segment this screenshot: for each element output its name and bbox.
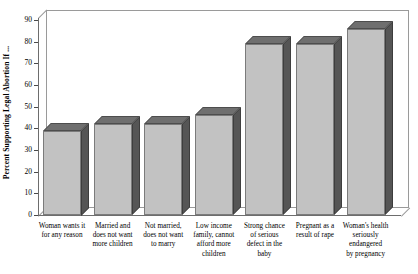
x-axis-category-line: Not married, [136, 222, 191, 231]
bar-top-face [347, 21, 393, 29]
x-axis-category-line: does not want [85, 231, 140, 240]
bar [43, 123, 81, 216]
x-axis-category-label: Pregnant as aresult of rape [288, 222, 343, 240]
x-axis-category-label: Not married,does not wantto marry [136, 222, 191, 250]
x-axis-category-line: Woman wants it [35, 222, 90, 231]
bar-front-face [43, 131, 81, 216]
bar-top-face [43, 123, 89, 131]
plot-area: 0102030405060708090 [38, 10, 409, 216]
y-tick-mark [34, 215, 38, 216]
x-axis-labels: Woman wants itfor any reasonMarried andd… [38, 222, 409, 274]
bar [144, 116, 182, 215]
bar-side-face [182, 116, 190, 215]
x-axis-category-line: family, cannot [187, 231, 242, 240]
x-axis-category-line: by pregnancy [338, 250, 393, 259]
y-tick-label: 90 [25, 16, 33, 24]
x-axis-category-line: result of rape [288, 231, 343, 240]
x-axis-category-line: seriously endangered [338, 231, 393, 249]
bar [195, 107, 233, 215]
bar-top-face [94, 116, 140, 124]
x-axis-category-line: of serious [237, 231, 292, 240]
y-tick-mark [34, 172, 38, 173]
bar-front-face [347, 29, 385, 215]
x-axis-category-line: more children [85, 240, 140, 249]
y-tick-label: 70 [25, 60, 33, 68]
x-axis-category-line: does not want [136, 231, 191, 240]
y-axis-title: Percent Supporting Legal Abortion If ... [0, 0, 14, 225]
y-tick-label: 30 [25, 146, 33, 154]
y-tick-label: 20 [25, 168, 33, 176]
y-tick-label: 10 [25, 190, 33, 198]
y-tick-mark [34, 128, 38, 129]
bar [347, 21, 385, 215]
bar-front-face [94, 124, 132, 215]
bar-chart: Percent Supporting Legal Abortion If ...… [0, 0, 418, 274]
y-tick-label: 0 [28, 211, 32, 219]
bar-side-face [81, 123, 89, 216]
x-axis-category-line: children [187, 250, 242, 259]
y-tick-mark [34, 42, 38, 43]
x-axis-category-line: Married and [85, 222, 140, 231]
bar-side-face [132, 116, 140, 215]
x-axis-category-line: afford more [187, 240, 242, 249]
bar [245, 36, 283, 215]
x-axis-category-label: Married anddoes not wantmore children [85, 222, 140, 250]
y-axis-title-text: Percent Supporting Legal Abortion If ... [3, 46, 12, 179]
x-axis-category-line: Woman's health [338, 222, 393, 231]
x-axis-line [38, 215, 401, 216]
y-tick-label: 40 [25, 125, 33, 133]
x-axis-category-line: Strong chance [237, 222, 292, 231]
x-axis-category-line: for any reason [35, 231, 90, 240]
x-axis-category-line: baby [237, 250, 292, 259]
y-tick-mark [34, 20, 38, 21]
bar-front-face [245, 44, 283, 215]
perspective-line-bottom-right [401, 208, 410, 217]
bar-front-face [144, 124, 182, 215]
bar-front-face [296, 44, 334, 215]
x-axis-category-line: to marry [136, 240, 191, 249]
bar-side-face [283, 36, 291, 215]
y-axis-line [38, 18, 39, 216]
y-tick-label: 60 [25, 81, 33, 89]
x-axis-category-line: Pregnant as a [288, 222, 343, 231]
x-axis-category-label: Strong chanceof seriousdefect in thebaby [237, 222, 292, 259]
bar-side-face [385, 21, 393, 215]
bar [94, 116, 132, 215]
y-tick-mark [34, 150, 38, 151]
x-axis-category-line: defect in the [237, 240, 292, 249]
y-tick-label: 50 [25, 103, 33, 111]
y-tick-mark [34, 85, 38, 86]
y-tick-mark [34, 107, 38, 108]
bar-top-face [296, 36, 342, 44]
bar-side-face [233, 107, 241, 215]
x-axis-category-label: Woman's healthseriously endangeredby pre… [338, 222, 393, 259]
bar [296, 36, 334, 215]
y-tick-label: 80 [25, 38, 33, 46]
x-axis-category-label: Low incomefamily, cannotafford morechild… [187, 222, 242, 259]
bar-front-face [195, 115, 233, 215]
x-axis-category-label: Woman wants itfor any reason [35, 222, 90, 240]
y-tick-mark [34, 63, 38, 64]
bar-side-face [334, 36, 342, 215]
x-axis-category-line: Low income [187, 222, 242, 231]
y-tick-mark [34, 193, 38, 194]
